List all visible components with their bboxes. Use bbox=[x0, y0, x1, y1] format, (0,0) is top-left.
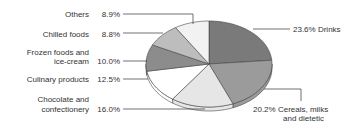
slice-label-chocolate-and-confectionery: confectionery bbox=[41, 105, 89, 114]
slice-label-chocolate-and-confectionery: Chocolate and bbox=[37, 95, 89, 104]
slice-label-cereals-milks-and-dietetic: 20.2% Cereals, milks bbox=[253, 105, 328, 114]
pie-slices bbox=[146, 21, 272, 107]
pie-slice-drinks bbox=[209, 21, 272, 64]
slice-label-frozen-foods-and-ice-cream: ice-cream bbox=[54, 57, 89, 66]
slice-label-frozen-foods-and-ice-cream: Frozen foods and bbox=[27, 48, 89, 57]
slice-label-drinks: 23.6% Drinks bbox=[293, 25, 341, 34]
slice-value-chilled-foods: 8.8% bbox=[102, 30, 120, 39]
slice-label-others: Others bbox=[65, 10, 89, 19]
slice-label-chilled-foods: Chilled foods bbox=[43, 30, 89, 39]
pie-chart: 23.6% Drinks20.2% Cereals, milksand diet… bbox=[0, 0, 357, 133]
slice-value-frozen-foods-and-ice-cream: 10.0% bbox=[97, 57, 120, 66]
slice-label-cereals-milks-and-dietetic: and dietetic bbox=[283, 114, 324, 123]
slice-value-others: 8.9% bbox=[102, 10, 120, 19]
slice-value-culinary-products: 12.5% bbox=[97, 75, 120, 84]
leader-line-cereals-milks-and-dietetic bbox=[264, 89, 301, 101]
slice-value-chocolate-and-confectionery: 16.0% bbox=[97, 105, 120, 114]
slice-label-culinary-products: Culinary products bbox=[27, 75, 89, 84]
leader-line-others bbox=[123, 14, 193, 24]
